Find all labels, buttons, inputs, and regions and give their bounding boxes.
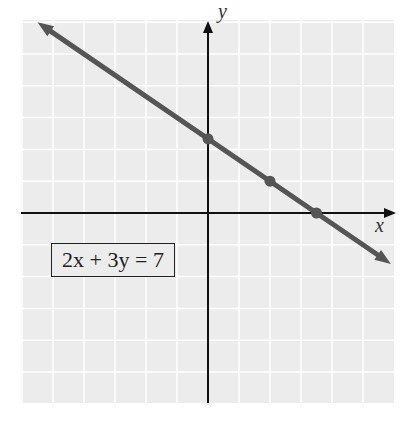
data-point [311, 208, 322, 219]
data-point [265, 176, 276, 187]
data-point [203, 133, 214, 144]
equation-label: 2x + 3y = 7 [51, 243, 175, 277]
x-axis-label: x [375, 214, 384, 237]
coordinate-plane [0, 0, 410, 434]
y-axis-label: y [218, 0, 227, 23]
